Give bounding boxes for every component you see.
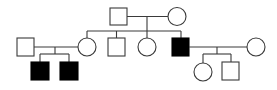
generation-2	[17, 38, 265, 56]
individual-III-4-male	[222, 62, 239, 80]
individual-I-2-female	[168, 8, 186, 26]
individual-III-3-female	[194, 63, 212, 81]
individual-II-4-male-affected	[172, 38, 189, 56]
individual-III-2-male-affected	[60, 62, 78, 80]
individual-II-3-female	[138, 38, 156, 56]
offspring-right	[194, 47, 239, 81]
sibling-drops-II	[87, 31, 181, 38]
individual-I-1-male	[110, 8, 127, 25]
individual-III-1-male-affected	[31, 62, 49, 80]
individual-II-spouse-left-male	[17, 38, 34, 56]
offspring-left	[31, 47, 78, 80]
individual-II-spouse-right-female	[247, 38, 265, 56]
generation-1	[87, 8, 186, 32]
pedigree-chart	[0, 0, 277, 90]
individual-II-1-female	[78, 38, 96, 56]
individual-II-2-male	[108, 38, 125, 56]
